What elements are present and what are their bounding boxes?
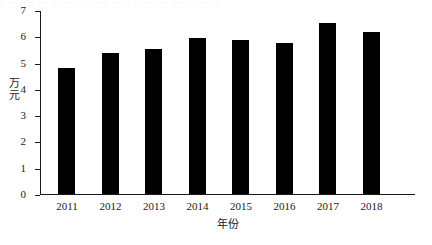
y-tick-label-6: 6 bbox=[4, 29, 26, 44]
x-tick-label-2013: 2013 bbox=[131, 199, 177, 213]
y-tick-label-1: 1 bbox=[4, 161, 26, 176]
x-tick-label-2011: 2011 bbox=[44, 199, 90, 213]
y-tick-mark bbox=[36, 116, 40, 117]
y-tick-mark bbox=[36, 169, 40, 170]
x-tick-label-2014: 2014 bbox=[174, 199, 220, 213]
y-tick-2: 2 bbox=[35, 142, 40, 143]
y-tick-label-5: 5 bbox=[4, 56, 26, 71]
x-tick-label-2012: 2012 bbox=[87, 199, 133, 213]
bar-chart-figure: 万 元 01234567 201120122013201420152016201… bbox=[0, 0, 432, 245]
y-tick-label-3: 3 bbox=[4, 108, 26, 123]
y-tick-label-2: 2 bbox=[4, 134, 26, 149]
bar-2015 bbox=[232, 40, 249, 194]
y-tick-mark bbox=[36, 90, 40, 91]
x-tick-label-2018: 2018 bbox=[348, 199, 394, 213]
bar-2014 bbox=[189, 38, 206, 194]
y-tick-mark bbox=[36, 11, 40, 12]
bar-2017 bbox=[319, 23, 336, 194]
x-axis-title: 年份 bbox=[40, 217, 415, 231]
y-tick-6: 6 bbox=[35, 37, 40, 38]
x-axis-line bbox=[40, 194, 415, 195]
x-tick-label-2016: 2016 bbox=[261, 199, 307, 213]
y-tick-label-0: 0 bbox=[4, 187, 26, 202]
y-tick-mark bbox=[36, 64, 40, 65]
bar-2016 bbox=[276, 43, 293, 194]
x-tick-label-2015: 2015 bbox=[218, 199, 264, 213]
plot-area: 01234567 2011201220132014201520162017201… bbox=[40, 11, 415, 195]
bar-2013 bbox=[145, 49, 162, 194]
bar-2012 bbox=[102, 53, 119, 194]
y-tick-label-4: 4 bbox=[4, 82, 26, 97]
y-axis-line bbox=[40, 11, 41, 195]
y-tick-7: 7 bbox=[35, 11, 40, 12]
x-tick-label-2017: 2017 bbox=[305, 199, 351, 213]
y-tick-mark bbox=[36, 37, 40, 38]
y-tick-0: 0 bbox=[35, 195, 40, 196]
bar-2018 bbox=[363, 32, 380, 194]
bar-2011 bbox=[58, 68, 75, 194]
y-tick-4: 4 bbox=[35, 90, 40, 91]
y-tick-1: 1 bbox=[35, 169, 40, 170]
y-tick-5: 5 bbox=[35, 64, 40, 65]
y-tick-label-7: 7 bbox=[4, 3, 26, 18]
y-tick-mark bbox=[36, 142, 40, 143]
y-tick-3: 3 bbox=[35, 116, 40, 117]
y-tick-mark bbox=[36, 195, 40, 196]
